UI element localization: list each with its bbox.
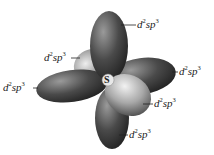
label-lower-right: d2sp3 (154, 98, 176, 109)
label-upper-left: d2sp3 (44, 52, 66, 63)
label-top: d2sp3 (137, 19, 159, 30)
hybrid-orbital-diagram: S d2sp3 d2sp3 d2sp3 d2sp3 d2sp3 d2sp3 (0, 0, 214, 155)
label-bottom: d2sp3 (129, 129, 151, 140)
lobe-top (90, 11, 128, 81)
label-right: d2sp3 (179, 66, 201, 77)
center-atom-label: S (104, 75, 110, 85)
label-left: d2sp3 (3, 82, 25, 93)
